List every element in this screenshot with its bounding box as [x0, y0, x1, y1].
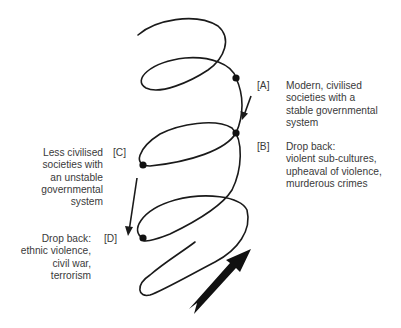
desc-line: governmental	[41, 184, 103, 196]
point-d-tag: [D]	[104, 233, 117, 245]
desc-line: stable governmental	[286, 105, 378, 117]
desc-line: Modern, civilised	[286, 80, 378, 92]
desc-line: Drop back:	[286, 141, 382, 153]
desc-line: ethnic violence,	[21, 245, 91, 257]
point-b-dot	[232, 129, 239, 136]
spiral-path	[138, 19, 248, 296]
point-a-description: Modern, civilised societies with a stabl…	[286, 80, 378, 129]
point-c-description: Less civilised societies with an unstabl…	[41, 147, 103, 208]
point-c-dot	[139, 161, 146, 168]
desc-line: system	[286, 117, 378, 129]
desc-line: terrorism	[21, 270, 91, 282]
desc-line: system	[41, 196, 103, 208]
desc-line: societies with a	[286, 92, 378, 104]
point-a-dot	[232, 74, 239, 81]
desc-line: civil war,	[21, 258, 91, 270]
desc-line: societies with	[41, 159, 103, 171]
point-a-tag: [A]	[257, 80, 269, 92]
desc-line: violent sub-cultures,	[286, 153, 382, 165]
point-c-tag: [C]	[113, 147, 126, 159]
desc-line: upheaval of violence,	[286, 166, 382, 178]
desc-line: Less civilised	[41, 147, 103, 159]
point-b-tag: [B]	[257, 141, 269, 153]
arrow-down-left-icon	[125, 178, 137, 236]
point-b-description: Drop back: violent sub-cultures, upheava…	[286, 141, 382, 190]
point-d-dot	[139, 234, 146, 241]
desc-line: an unstable	[41, 172, 103, 184]
desc-line: murderous crimes	[286, 178, 382, 190]
point-d-description: Drop back: ethnic violence, civil war, t…	[21, 233, 91, 282]
desc-line: Drop back:	[21, 233, 91, 245]
